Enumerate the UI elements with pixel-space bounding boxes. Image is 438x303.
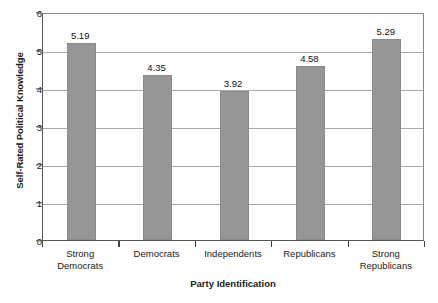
bar-value-label: 3.92 [208, 78, 258, 89]
x-axis-title: Party Identification [42, 278, 424, 289]
x-cat-label-line: Democrats [118, 248, 194, 260]
y-axis-ticks: 0123456 [0, 13, 42, 241]
bar-chart-figure: Self-Rated Political Knowledge 0123456 P… [0, 0, 438, 303]
x-cat-label-line: Democrats [42, 260, 118, 272]
bar [143, 75, 172, 240]
x-tick-mark [195, 241, 196, 247]
x-cat-label-line: Strong [348, 248, 424, 260]
bar-value-label: 4.35 [132, 62, 182, 73]
x-cat-label-line: Republicans [348, 260, 424, 272]
plot-area [42, 13, 424, 241]
x-cat-label-line: Independents [195, 248, 271, 260]
bar [372, 39, 401, 240]
bar-value-label: 5.19 [55, 30, 105, 41]
bar [67, 43, 96, 240]
x-tick-mark [271, 241, 272, 247]
x-category-label: StrongDemocrats [42, 248, 118, 271]
x-category-label: Independents [195, 248, 271, 260]
bar [220, 91, 249, 240]
gridline [43, 52, 423, 53]
x-tick-mark [42, 241, 43, 247]
bar-value-label: 5.29 [361, 26, 411, 37]
x-cat-label-line: Republicans [271, 248, 347, 260]
x-tick-mark [424, 241, 425, 247]
bar [296, 66, 325, 240]
x-tick-mark [118, 241, 119, 247]
x-category-label: StrongRepublicans [348, 248, 424, 271]
x-category-label: Democrats [118, 248, 194, 260]
x-cat-label-line: Strong [42, 248, 118, 260]
bar-value-label: 4.58 [284, 53, 334, 64]
x-tick-mark [348, 241, 349, 247]
x-category-label: Republicans [271, 248, 347, 260]
